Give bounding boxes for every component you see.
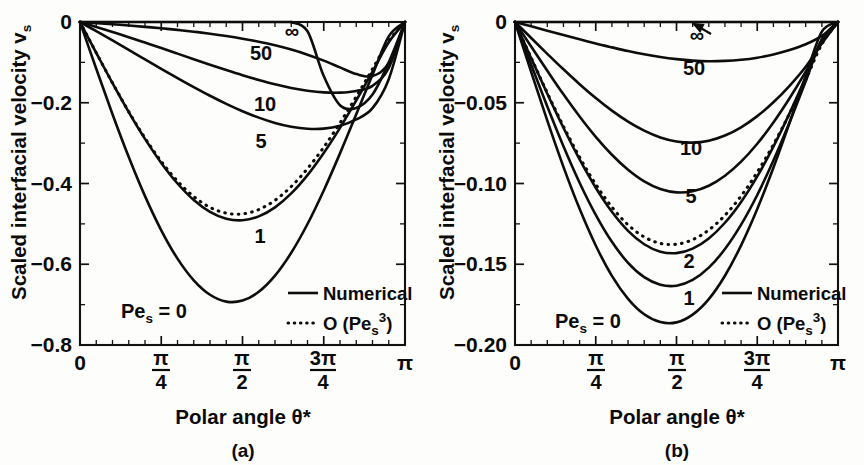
panel-a-xtick-1-num: π — [153, 347, 168, 369]
panel-b-caption: (b) — [665, 440, 689, 461]
panel-b-curves — [515, 22, 838, 323]
panel-b-xtick-4: π — [830, 351, 846, 374]
panel-a-ytick-0: 0 — [60, 10, 72, 33]
panel-a-ytick-2: −0.4 — [31, 172, 73, 195]
panel-a-xtick-3-num: 3π — [310, 347, 336, 369]
panel-a-ytick-1: −0.2 — [31, 91, 72, 114]
panel-b-y-title-text: Scaled interfacial velocity v — [435, 32, 458, 300]
panel-b-curve-3 — [515, 22, 838, 245]
panel-a-curve-label-10: 10 — [254, 93, 276, 115]
panel-a-x-tick-labels: 0 π 4 π 2 3π 4 π — [74, 347, 413, 393]
panel-b-curve-label-10: 10 — [680, 137, 702, 159]
panel-a-curve-label-1: 1 — [254, 225, 265, 247]
panel-b-xtick-1-num: π — [588, 347, 603, 369]
panel-b: 0−0.05−0.10−0.15−0.20 0 π 4 π 2 3π 4 π S… — [432, 0, 864, 465]
panel-a-curve-label-inf: ∞ — [285, 20, 299, 42]
panel-b-legend-label-numerical: Numerical — [757, 283, 846, 304]
panel-a-xtick-4: π — [397, 351, 413, 374]
panel-b-legend-label-asymptotic: O (Pes3) — [757, 310, 827, 338]
panel-b-xtick-2-den: 2 — [671, 371, 682, 393]
panel-b-curve-label-5: 5 — [685, 185, 696, 207]
panel-a-xtick-0: 0 — [74, 351, 86, 374]
panel-b-curve-label-50: 50 — [683, 57, 705, 79]
panel-a: 0−0.2−0.4−0.6−0.8 0 π 4 π 2 3π 4 π Scale… — [0, 0, 432, 465]
panel-b-ytick-0: 0 — [495, 10, 507, 33]
panel-a-caption: (a) — [231, 440, 254, 461]
panel-a-xtick-2-num: π — [234, 347, 249, 369]
panel-a-svg: 0−0.2−0.4−0.6−0.8 0 π 4 π 2 3π 4 π Scale… — [0, 0, 432, 465]
panel-b-xtick-3-num: 3π — [744, 347, 770, 369]
panel-a-curve-1 — [80, 22, 405, 220]
panel-b-ytick-2: −0.10 — [454, 172, 507, 195]
panel-b-xtick-0: 0 — [509, 351, 521, 374]
panel-a-y-axis-title: Scaled interfacial velocity vs — [7, 25, 34, 300]
panel-a-ytick-3: −0.6 — [31, 252, 72, 275]
panel-a-curve-infinity-branch — [291, 22, 405, 109]
panel-b-y-tick-labels: 0−0.05−0.10−0.15−0.20 — [454, 10, 507, 356]
panel-a-legend-label-numerical: Numerical — [323, 283, 412, 304]
panel-b-xtick-1-den: 4 — [590, 371, 602, 393]
panel-a-xtick-1-den: 4 — [155, 371, 167, 393]
panel-a-legend-label-asymptotic: O (Pes3) — [323, 310, 393, 338]
panel-a-y-title-sub: s — [19, 25, 34, 33]
panel-b-x-axis-title: Polar angle θ* — [609, 405, 744, 428]
panel-b-curve-label-inf: ∞ — [690, 24, 704, 46]
panel-b-x-tick-labels: 0 π 4 π 2 3π 4 π — [509, 347, 846, 393]
panel-b-pes-zero-label: Pes = 0 — [555, 310, 621, 336]
panel-a-curves — [80, 22, 405, 302]
panel-a-y-tick-labels: 0−0.2−0.4−0.6−0.8 — [31, 10, 73, 356]
svg-text:Scaled interfacial velocity vs: Scaled interfacial velocity vs — [435, 25, 462, 300]
panel-a-curve-4 — [80, 22, 405, 93]
figure-root: 0−0.2−0.4−0.6−0.8 0 π 4 π 2 3π 4 π Scale… — [0, 0, 864, 465]
panel-a-ytick-4: −0.8 — [31, 333, 73, 356]
panel-b-curve-2 — [515, 22, 838, 253]
panel-b-curve-1 — [515, 22, 838, 286]
panel-b-y-axis-title: Scaled interfacial velocity vs — [435, 25, 462, 300]
panel-a-xtick-3-den: 4 — [317, 371, 329, 393]
panel-b-ytick-4: −0.20 — [454, 333, 507, 356]
svg-text:Scaled interfacial velocity vs: Scaled interfacial velocity vs — [7, 25, 34, 300]
panel-a-xtick-2-den: 2 — [236, 371, 247, 393]
panel-b-ytick-3: −0.15 — [454, 252, 507, 275]
panel-b-xtick-2-num: π — [669, 347, 684, 369]
panel-b-svg: 0−0.05−0.10−0.15−0.20 0 π 4 π 2 3π 4 π S… — [432, 0, 864, 465]
panel-a-curve-0 — [80, 22, 405, 302]
panel-a-legend: Numerical O (Pes3) — [288, 283, 412, 338]
panel-b-y-title-sub: s — [447, 25, 462, 33]
panel-a-x-axis-title: Polar angle θ* — [175, 405, 310, 428]
panel-b-xtick-3-den: 4 — [751, 371, 763, 393]
panel-a-pes-zero-label: Pes = 0 — [121, 300, 187, 326]
panel-b-ytick-1: −0.05 — [454, 91, 507, 114]
panel-a-y-title-text: Scaled interfacial velocity v — [7, 32, 30, 300]
panel-a-curve-label-5: 5 — [255, 130, 266, 152]
panel-b-legend: Numerical O (Pes3) — [722, 283, 846, 338]
panel-a-curve-label-50: 50 — [250, 42, 272, 64]
panel-b-curve-label-1: 1 — [683, 287, 694, 309]
panel-b-curve-0 — [515, 22, 838, 323]
panel-b-curve-label-2: 2 — [683, 250, 694, 272]
